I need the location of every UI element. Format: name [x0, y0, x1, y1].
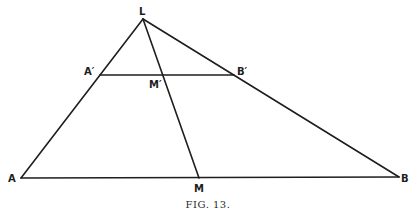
triangle-diagram: L A′ M′ B′ A M B — [0, 0, 416, 219]
figure-caption: FIG. 13. — [0, 199, 416, 210]
side-LA — [21, 19, 143, 178]
label-B: B — [401, 173, 409, 184]
side-LB — [143, 19, 399, 177]
label-B1: B′ — [237, 66, 248, 77]
label-A1: A′ — [84, 66, 95, 77]
line-LM — [143, 19, 199, 178]
label-L: L — [139, 6, 146, 17]
label-A: A — [8, 173, 16, 184]
label-M: M — [194, 183, 204, 194]
base-AB — [21, 177, 399, 178]
label-M1: M′ — [149, 79, 162, 90]
